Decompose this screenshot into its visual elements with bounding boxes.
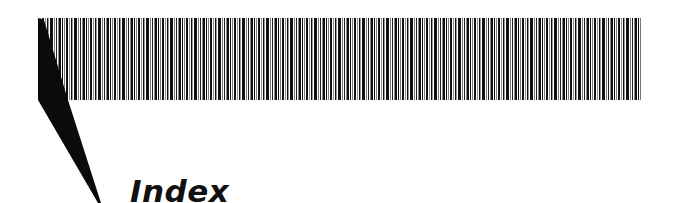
wedge-pointer-icon: [0, 0, 675, 203]
page-title: Index: [130, 176, 229, 203]
